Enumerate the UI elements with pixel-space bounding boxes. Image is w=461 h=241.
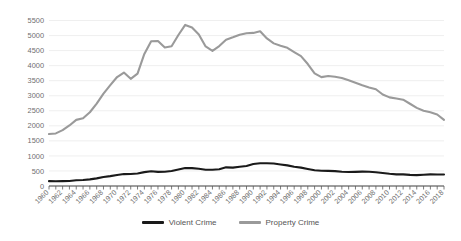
- legend-item-violent-crime: Violent Crime: [142, 218, 217, 227]
- y-axis-tick-label: 2500: [28, 106, 44, 115]
- legend-swatch-violent-crime: [142, 221, 164, 224]
- series-line-property-crime: [49, 25, 444, 134]
- y-axis-tick-label: 2000: [28, 121, 44, 130]
- y-axis-tick-label: 3000: [28, 91, 44, 100]
- y-axis-tick-label: 1000: [28, 152, 44, 161]
- legend-label-property-crime: Property Crime: [266, 218, 320, 227]
- y-axis-tick-label: 4000: [28, 61, 44, 70]
- x-axis-tick-label: 2018: [428, 188, 446, 206]
- y-axis-tick-label: 4500: [28, 46, 44, 55]
- legend-label-violent-crime: Violent Crime: [169, 218, 217, 227]
- series-line-violent-crime: [49, 163, 444, 181]
- legend-swatch-property-crime: [239, 221, 261, 224]
- legend-item-property-crime: Property Crime: [239, 218, 320, 227]
- y-axis-tick-label: 5500: [28, 16, 44, 25]
- y-axis-tick-label: 3500: [28, 76, 44, 85]
- y-axis-tick-label: 1500: [28, 136, 44, 145]
- crime-rate-line-chart: 0500100015002000250030003500400045005000…: [0, 0, 461, 241]
- chart-plot-area: 0500100015002000250030003500400045005000…: [0, 0, 461, 241]
- y-axis-tick-label: 5000: [28, 31, 44, 40]
- y-axis-tick-label: 500: [32, 167, 44, 176]
- chart-legend: Violent Crime Property Crime: [0, 218, 461, 227]
